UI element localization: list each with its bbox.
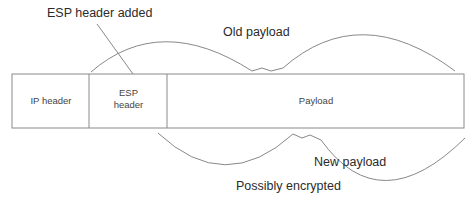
- payload-label: Payload: [299, 95, 333, 106]
- old-payload-arc: [91, 35, 455, 72]
- ip-header-segment: IP header: [13, 95, 89, 107]
- new-payload-arc: [158, 133, 465, 181]
- new-payload-label: New payload: [314, 155, 386, 169]
- payload-segment: Payload: [168, 95, 464, 107]
- esp-header-label-line2: header: [90, 99, 167, 111]
- esp-header-added-label: ESP header added: [47, 6, 152, 20]
- esp-header-label-line1: ESP: [90, 87, 167, 99]
- old-payload-label: Old payload: [223, 25, 290, 39]
- possibly-encrypted-label: Possibly encrypted: [236, 179, 341, 193]
- ip-header-label: IP header: [30, 95, 71, 106]
- esp-header-segment: ESP header: [90, 87, 167, 111]
